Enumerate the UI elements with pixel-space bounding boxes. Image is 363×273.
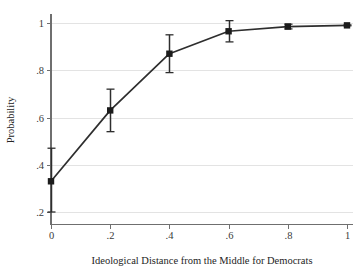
x-axis-title: Ideological Distance from the Middle for… — [91, 255, 312, 266]
line-chart-plot: 1.8.6.4.2 0.2.4.6.81 Ideological Distanc… — [0, 0, 363, 273]
y-axis-title: Probability — [5, 96, 16, 143]
data-point-marker — [166, 51, 172, 57]
x-tick-label: .4 — [166, 230, 175, 241]
x-tick-label: .2 — [107, 230, 115, 241]
data-point-marker — [225, 28, 231, 34]
data-point-marker — [48, 178, 54, 184]
x-tick-label: .6 — [226, 230, 234, 241]
x-tick-label: 1 — [345, 230, 350, 241]
y-tick-label: .4 — [36, 160, 45, 171]
y-tick-label: .6 — [36, 113, 44, 124]
y-tick-label: 1 — [39, 18, 44, 29]
chart-background — [0, 0, 363, 273]
data-point-marker — [344, 22, 350, 28]
x-tick-label: 0 — [49, 230, 54, 241]
data-point-marker — [107, 107, 113, 113]
y-tick-label: .8 — [36, 65, 44, 76]
chart-figure: 1.8.6.4.2 0.2.4.6.81 Ideological Distanc… — [0, 0, 363, 273]
x-tick-label: .8 — [285, 230, 293, 241]
data-point-marker — [285, 23, 291, 29]
y-tick-label: .2 — [36, 207, 44, 218]
